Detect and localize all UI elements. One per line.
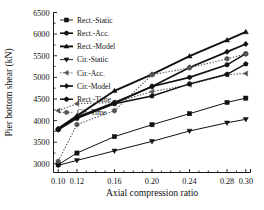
data-point-marker <box>243 61 248 66</box>
y-tick-label: 5000 <box>33 73 49 82</box>
y-tick-label: 3000 <box>33 160 49 169</box>
data-point-marker <box>64 70 68 75</box>
data-point-marker <box>244 96 248 100</box>
data-point-marker <box>150 72 154 77</box>
data-point-marker <box>187 75 191 79</box>
data-point-marker <box>56 159 60 164</box>
data-point-marker <box>75 151 79 155</box>
legend-item-cir-time[interactable]: Cir.-Time <box>60 108 107 117</box>
legend-item-rect-time[interactable]: Rect.-Time <box>60 95 112 104</box>
data-point-marker <box>225 49 230 54</box>
chart-legend: Rect.-StaticRect.-Acc.Rect.-ModelCir.-St… <box>60 16 115 117</box>
legend-item-cir-model[interactable]: Cir.-Model <box>60 82 111 91</box>
legend-label: Rect.-Static <box>77 16 113 25</box>
data-point-marker <box>64 83 69 88</box>
line-chart: 300035004000450050005500600065000.100.12… <box>0 0 264 210</box>
y-tick-label: 4000 <box>33 117 49 126</box>
data-point-marker <box>243 71 247 76</box>
data-point-marker <box>64 31 68 35</box>
x-tick-label: 0.20 <box>145 177 159 186</box>
data-point-marker <box>243 29 248 33</box>
data-point-marker <box>150 84 155 89</box>
data-point-marker <box>65 18 69 22</box>
data-point-marker <box>187 112 191 116</box>
legend-label: Cir.-Model <box>77 82 111 91</box>
data-point-marker <box>225 100 229 104</box>
data-point-marker <box>64 97 69 101</box>
data-point-marker <box>149 89 153 94</box>
data-point-marker <box>150 123 154 127</box>
x-tick-label: 0.12 <box>70 177 84 186</box>
data-point-marker <box>112 135 116 139</box>
data-point-marker <box>112 108 116 113</box>
chart-figure: 300035004000450050005500600065000.100.12… <box>0 0 264 210</box>
x-axis-title: Axial compression ratio <box>106 187 198 198</box>
legend-label: Rect.-Model <box>77 42 115 51</box>
legend-label: Cir.-Acc. <box>77 69 105 78</box>
x-tick-label: 0.16 <box>107 177 121 186</box>
y-tick-label: 5500 <box>33 52 49 61</box>
data-point-marker <box>225 63 229 67</box>
data-point-marker <box>225 56 229 61</box>
x-tick-label: 0.24 <box>182 177 196 186</box>
legend-item-cir-acc[interactable]: Cir.-Acc. <box>60 69 105 78</box>
legend-label: Rect.-Time <box>77 95 112 104</box>
legend-label: Cir.-Static <box>77 55 109 64</box>
x-tick-label: 0.30 <box>239 177 253 186</box>
legend-label: Cir.-Time <box>77 108 107 117</box>
data-point-marker <box>75 122 79 127</box>
y-tick-label: 4500 <box>33 95 49 104</box>
legend-item-cir-static[interactable]: Cir.-Static <box>60 55 109 64</box>
x-tick-label: 0.10 <box>51 177 65 186</box>
legend-item-rect-acc[interactable]: Rect.-Acc. <box>60 29 110 38</box>
y-tick-label: 6500 <box>33 9 49 18</box>
legend-label: Rect.-Acc. <box>77 29 110 38</box>
legend-item-rect-static[interactable]: Rect.-Static <box>60 16 113 25</box>
data-point-marker <box>243 41 248 46</box>
y-tick-label: 6000 <box>33 30 49 39</box>
x-tick-label: 0.28 <box>220 177 234 186</box>
legend-item-rect-model[interactable]: Rect.-Model <box>60 42 115 51</box>
y-tick-label: 3500 <box>33 138 49 147</box>
data-point-marker <box>64 110 68 115</box>
series-rect-static <box>56 96 248 167</box>
data-point-marker <box>187 65 191 70</box>
y-axis-title: Pier bottom shear (kN) <box>3 48 15 136</box>
data-point-marker <box>244 51 248 56</box>
data-point-marker <box>56 108 60 113</box>
